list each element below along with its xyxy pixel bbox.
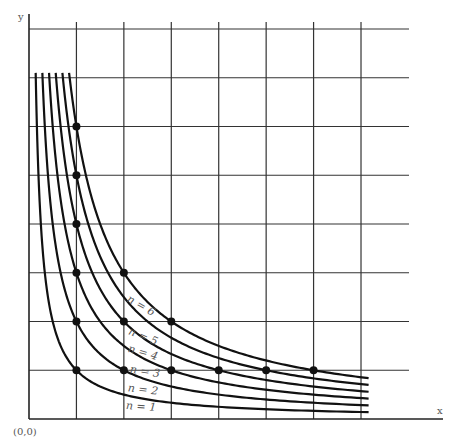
hyperbola-n5	[62, 73, 368, 385]
curve-label: n = 1	[125, 399, 156, 414]
curve-label: n = 2	[127, 381, 159, 398]
y-axis-label: y	[17, 11, 24, 22]
hyperbola-lattice-diagram: n = 1n = 2n = 3n = 4n = 5n = 6 y x (0,0)	[0, 0, 459, 442]
lattice-point-dot	[310, 366, 318, 374]
lattice-point-dot	[167, 366, 175, 374]
lattice-point-dot	[72, 318, 80, 326]
lattice-point-dot	[72, 220, 80, 228]
lattice-point-dot	[262, 366, 270, 374]
lattice-point-dot	[72, 123, 80, 131]
lattice-point-dot	[215, 366, 223, 374]
origin-label: (0,0)	[13, 426, 37, 437]
lattice-point-dot	[120, 366, 128, 374]
lattice-point-dot	[72, 269, 80, 277]
hyperbola-n1	[36, 73, 369, 412]
lattice-point-dot	[120, 318, 128, 326]
hyperbola-n2	[42, 73, 368, 406]
axes	[29, 14, 443, 419]
lattice-point-dot	[167, 318, 175, 326]
grid-lines	[29, 22, 409, 419]
x-axis-label: x	[437, 405, 443, 416]
lattice-point-dot	[72, 366, 80, 374]
lattice-point-dot	[120, 269, 128, 277]
hyperbola-curves	[36, 73, 369, 412]
lattice-point-dot	[72, 171, 80, 179]
